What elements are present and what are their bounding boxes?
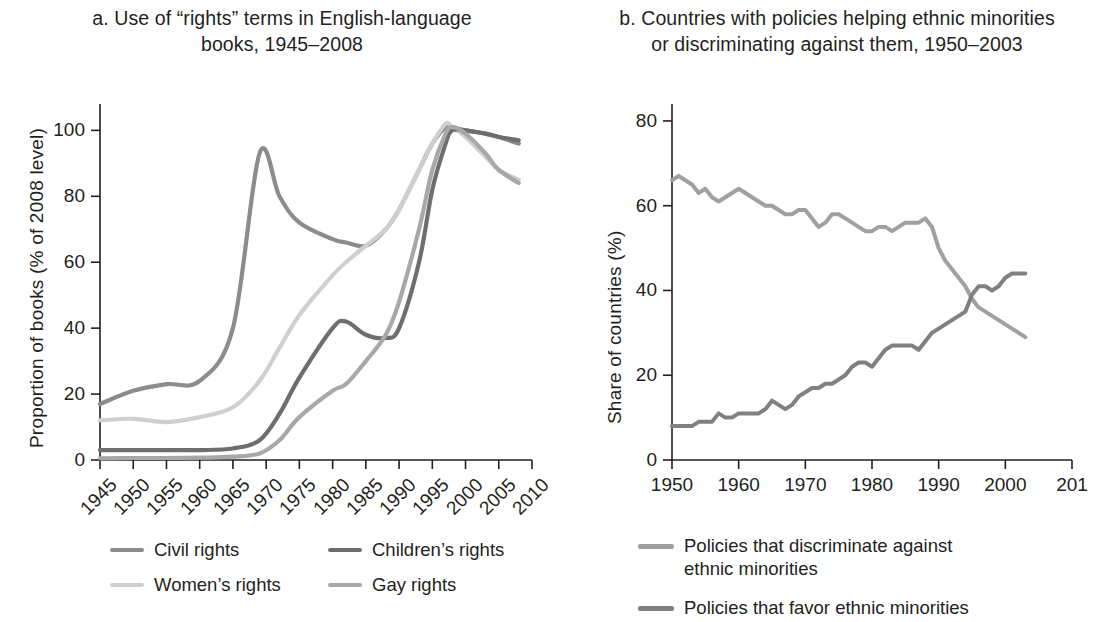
panel-b-svg: [672, 104, 1072, 460]
legend-item-womens-rights: Women’s rights: [110, 573, 328, 596]
x-tick-label: 1980: [851, 474, 893, 496]
panel-a-plot-area: [100, 104, 532, 460]
y-tick-label: 0: [27, 449, 85, 471]
legend-item-civil-rights: Civil rights: [110, 538, 328, 561]
y-tick-label: 80: [27, 185, 85, 207]
panel-a-svg: [100, 104, 532, 460]
y-tick-label: 20: [27, 383, 85, 405]
legend-swatch-childrens-rights: [328, 548, 362, 552]
panel-b: b. Countries with policies helping ethni…: [560, 0, 1112, 622]
x-tick-label: 1970: [784, 474, 826, 496]
y-tick-label: 80: [599, 110, 657, 132]
legend-swatch-civil-rights: [110, 548, 144, 552]
y-tick-label: 40: [27, 317, 85, 339]
panel-b-legend: Policies that discriminate againstethnic…: [638, 534, 969, 619]
panel-b-plot-area: [672, 104, 1072, 460]
legend-swatch-womens-rights: [110, 583, 144, 587]
legend-swatch-favor: [638, 606, 674, 611]
y-tick-label: 60: [599, 195, 657, 217]
y-tick-label: 100: [27, 119, 85, 141]
legend-label-gay-rights: Gay rights: [372, 573, 456, 596]
panel-b-title: b. Countries with policies helping ethni…: [566, 6, 1108, 57]
legend-item-discriminate: Policies that discriminate againstethnic…: [638, 534, 969, 580]
x-tick-label: 1950: [651, 474, 693, 496]
x-tick-label: 201: [1056, 474, 1088, 496]
legend-label-womens-rights: Women’s rights: [154, 573, 281, 596]
x-tick-label: 2000: [984, 474, 1026, 496]
legend-label-childrens-rights: Children’s rights: [372, 538, 504, 561]
panel-b-y-axis-label: Share of countries (%): [604, 231, 626, 424]
x-tick-label: 1960: [718, 474, 760, 496]
panel-a: a. Use of “rights” terms in English-lang…: [0, 0, 560, 622]
legend-swatch-gay-rights: [328, 583, 362, 587]
panel-a-legend: Civil rights Children’s rights Women’s r…: [110, 538, 504, 596]
legend-swatch-discriminate: [638, 544, 674, 549]
y-tick-label: 0: [599, 449, 657, 471]
legend-item-favor: Policies that favor ethnic minorities: [638, 596, 969, 619]
figure-root: a. Use of “rights” terms in English-lang…: [0, 0, 1112, 622]
y-tick-label: 20: [599, 364, 657, 386]
x-tick-label: 1990: [918, 474, 960, 496]
legend-item-childrens-rights: Children’s rights: [328, 538, 504, 561]
legend-label-civil-rights: Civil rights: [154, 538, 239, 561]
y-tick-label: 40: [599, 279, 657, 301]
legend-item-gay-rights: Gay rights: [328, 573, 504, 596]
panel-a-title: a. Use of “rights” terms in English-lang…: [14, 6, 550, 57]
legend-label-discriminate: Policies that discriminate againstethnic…: [684, 534, 952, 580]
legend-label-favor: Policies that favor ethnic minorities: [684, 596, 969, 619]
y-tick-label: 60: [27, 251, 85, 273]
